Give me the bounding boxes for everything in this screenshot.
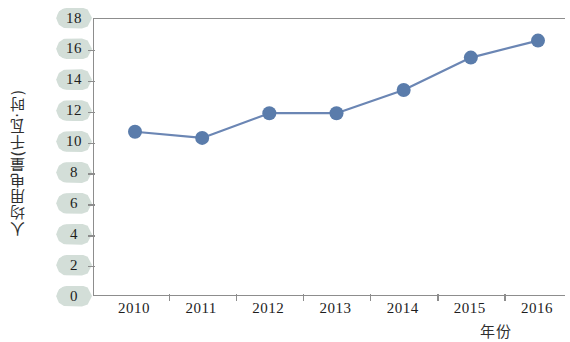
x-axis-tick-label: 2016: [507, 300, 567, 317]
y-axis-tick-label: 6: [52, 192, 96, 215]
y-axis-tick-label: 18: [52, 7, 96, 30]
y-axis-tick-mark: [88, 143, 95, 144]
y-axis-tick-mark: [88, 50, 95, 51]
y-axis-tick-label: 0: [52, 285, 96, 308]
x-axis-title: 年份: [480, 320, 512, 341]
y-axis-tick-mark: [88, 235, 95, 236]
y-tick-label-text: 2: [70, 257, 78, 274]
y-axis-tick-mark: [88, 204, 95, 205]
y-axis-tick-label: 4: [52, 223, 96, 246]
data-point-marker: [397, 83, 411, 97]
data-series-line: [94, 19, 566, 297]
y-axis-tick-label: 12: [52, 99, 96, 122]
data-point-marker: [262, 106, 276, 120]
x-axis-tick-label: 2013: [306, 300, 366, 317]
y-axis-tick-mark: [88, 81, 95, 82]
data-point-marker: [330, 106, 344, 120]
x-axis-tick-label: 2010: [104, 300, 164, 317]
y-axis-tick-label: 14: [52, 68, 96, 91]
data-point-marker: [464, 51, 478, 65]
data-point-marker: [531, 34, 545, 48]
y-tick-label-text: 4: [70, 226, 78, 243]
y-tick-label-text: 16: [66, 40, 82, 57]
y-tick-label-text: 0: [70, 288, 78, 305]
y-axis-tick-mark: [88, 173, 95, 174]
y-tick-label-text: 12: [66, 102, 82, 119]
y-axis-tick-mark: [88, 266, 95, 267]
plot-area: [93, 18, 565, 296]
y-axis-tick-label: 16: [52, 37, 96, 60]
series-polyline: [135, 41, 538, 138]
x-axis-tick-label: 2014: [373, 300, 433, 317]
data-point-marker: [195, 131, 209, 145]
y-tick-label-text: 6: [70, 195, 78, 212]
y-tick-label-text: 18: [66, 10, 82, 27]
x-axis-tick-label: 2015: [440, 300, 500, 317]
y-axis-tick-label-group: 024681012141618: [52, 0, 96, 342]
y-tick-label-text: 14: [66, 71, 82, 88]
y-axis-title: 人均用电量(千瓦·时): [2, 38, 32, 288]
x-axis-tick-label-group: 2010201120122013201420152016: [93, 300, 570, 322]
line-chart: 人均用电量(千瓦·时) 024681012141618 201020112012…: [0, 0, 570, 342]
y-tick-label-text: 8: [70, 164, 78, 181]
y-axis-tick-label: 10: [52, 130, 96, 153]
y-axis-tick-label: 2: [52, 254, 96, 277]
y-axis-tick-mark: [88, 112, 95, 113]
y-axis-title-text: 人均用电量(千瓦·时): [7, 89, 28, 236]
y-axis-tick-label: 8: [52, 161, 96, 184]
x-axis-tick-label: 2011: [171, 300, 231, 317]
y-tick-label-text: 10: [66, 133, 82, 150]
x-axis-tick-label: 2012: [238, 300, 298, 317]
series-markers: [128, 34, 545, 145]
data-point-marker: [128, 125, 142, 139]
